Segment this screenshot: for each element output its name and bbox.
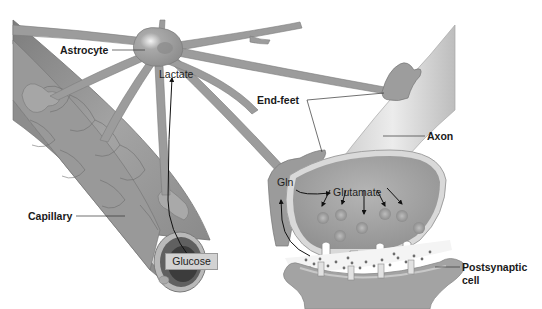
label-gln: Gln xyxy=(277,177,293,188)
astrocyte-soma xyxy=(133,28,182,67)
label-glutamate: Glutamate xyxy=(333,187,381,198)
label-astrocyte: Astrocyte xyxy=(60,45,108,56)
label-postsynaptic-line2: cell xyxy=(462,275,480,286)
label-capillary: Capillary xyxy=(28,211,72,222)
label-lactate: Lactate xyxy=(159,69,193,80)
label-end-feet: End-feet xyxy=(257,95,299,106)
label-glucose: Glucose xyxy=(172,255,211,267)
diagram-canvas: Astrocyte Lactate End-feet Axon Gln Glut… xyxy=(0,0,542,309)
capillary-vessel xyxy=(13,20,212,292)
label-glucose-box: Glucose xyxy=(165,253,218,270)
label-axon: Axon xyxy=(427,131,453,142)
label-postsynaptic-line1: Postsynaptic xyxy=(462,262,527,273)
